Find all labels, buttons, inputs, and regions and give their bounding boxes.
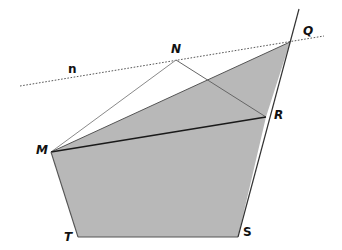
label-R: R <box>274 108 283 122</box>
geometry-figure: N Q R M T S n <box>0 0 342 250</box>
label-S: S <box>243 225 252 239</box>
shaded-pentagon-MQRST <box>51 42 290 237</box>
label-M: M <box>36 143 48 157</box>
label-line-n: n <box>68 62 77 76</box>
label-Q: Q <box>303 24 313 38</box>
label-T: T <box>64 230 73 244</box>
label-N: N <box>171 42 181 56</box>
